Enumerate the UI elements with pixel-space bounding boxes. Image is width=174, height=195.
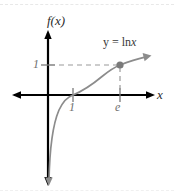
y-tick-label-1: 1 [33,58,39,70]
graph-canvas [0,0,174,195]
y-axis-label: f(x) [47,14,65,27]
curve-equation-label: y = lnx [103,36,136,48]
x-tick-label-1: 1 [69,101,75,113]
x-axis-label: x [157,88,163,101]
x-axis [12,91,155,98]
curve-equation-variable: x [131,35,136,49]
x-tick-label-e: e [115,101,120,113]
function-graph-figure: f(x) x y = lnx 1 1 e [0,0,174,195]
natural-log-curve [45,53,151,186]
curve-arrow-right [143,53,152,61]
curve-equation-prefix: y = ln [103,35,131,49]
point-marker-e-1 [116,61,123,68]
y-axis [44,30,51,186]
x-axis-arrow-left [12,91,21,98]
y-axis-arrow-up [44,30,51,39]
x-axis-arrow-right [146,91,155,98]
